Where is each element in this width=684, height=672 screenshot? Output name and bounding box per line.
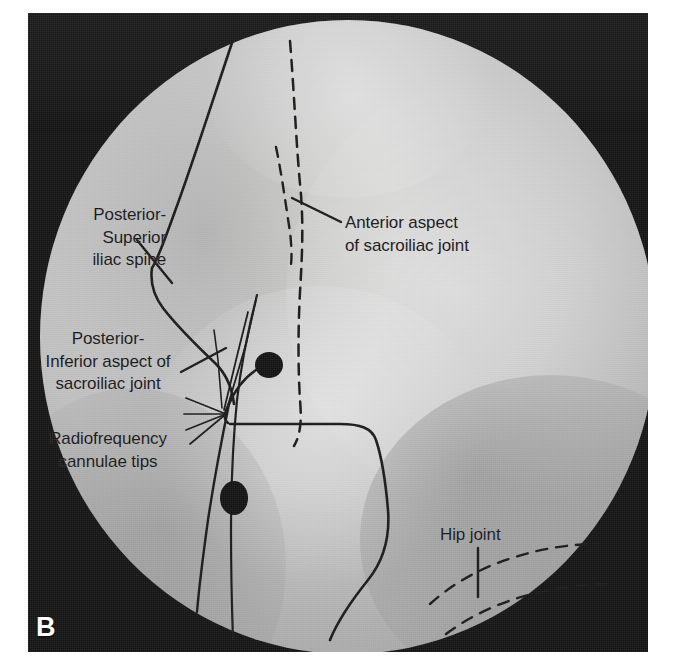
label-line: Anterior aspect	[345, 212, 555, 235]
label-radiofrequency-cannulae-tips: Radiofrequency cannulae tips	[10, 428, 206, 473]
label-line: Posterior-	[14, 204, 166, 227]
label-line: iliac spine	[14, 249, 166, 272]
label-line: Superior	[14, 227, 166, 250]
label-anterior-aspect-sacroiliac-joint: Anterior aspect of sacroiliac joint	[345, 212, 555, 257]
label-line: cannulae tips	[10, 451, 206, 474]
panel-letter: B	[36, 614, 56, 641]
label-posterior-inferior-sacroiliac-joint: Posterior- Inferior aspect of sacroiliac…	[10, 328, 206, 396]
label-line: Radiofrequency	[10, 428, 206, 451]
label-line: sacroiliac joint	[10, 373, 206, 396]
figure-panel-b: B Posterior- Superior iliac spine Poster…	[0, 0, 684, 672]
label-line: Inferior aspect of	[10, 351, 206, 374]
label-line: of sacroiliac joint	[345, 235, 555, 258]
label-hip-joint: Hip joint	[440, 524, 550, 547]
label-posterior-superior-iliac-spine: Posterior- Superior iliac spine	[14, 204, 166, 272]
label-line: Hip joint	[440, 524, 550, 547]
label-line: Posterior-	[10, 328, 206, 351]
